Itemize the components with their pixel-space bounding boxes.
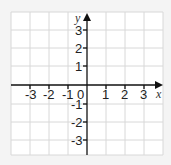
x-tick-label: 2: [121, 87, 128, 102]
y-tick-label: 3: [75, 23, 82, 38]
x-tick-label: -2: [43, 87, 55, 102]
y-tick-label: 2: [75, 41, 82, 56]
y-tick-label: -3: [71, 133, 83, 148]
x-axis-label: x: [155, 87, 162, 101]
coordinate-plane: x y 0 -3 -2 -1 1 2 3 3 2 1 -1 -2 -3: [0, 0, 171, 165]
x-tick-label: 3: [140, 87, 147, 102]
y-tick-label: -2: [71, 115, 83, 130]
y-tick-label: 1: [75, 59, 82, 74]
x-tick-label: -3: [25, 87, 37, 102]
x-tick-label: 1: [102, 87, 109, 102]
y-tick-label: -1: [71, 97, 83, 112]
